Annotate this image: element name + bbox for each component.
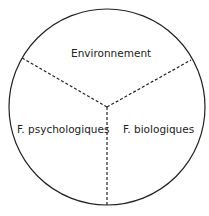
sector-label-environnement: Environnement bbox=[71, 47, 151, 59]
divider-right bbox=[107, 60, 191, 107]
divider-left bbox=[22, 58, 107, 107]
sector-label-biologiques: F. biologiques bbox=[123, 123, 194, 135]
sector-label-psychologiques: F. psychologiques bbox=[17, 123, 109, 135]
three-sector-circle-diagram bbox=[0, 0, 209, 216]
